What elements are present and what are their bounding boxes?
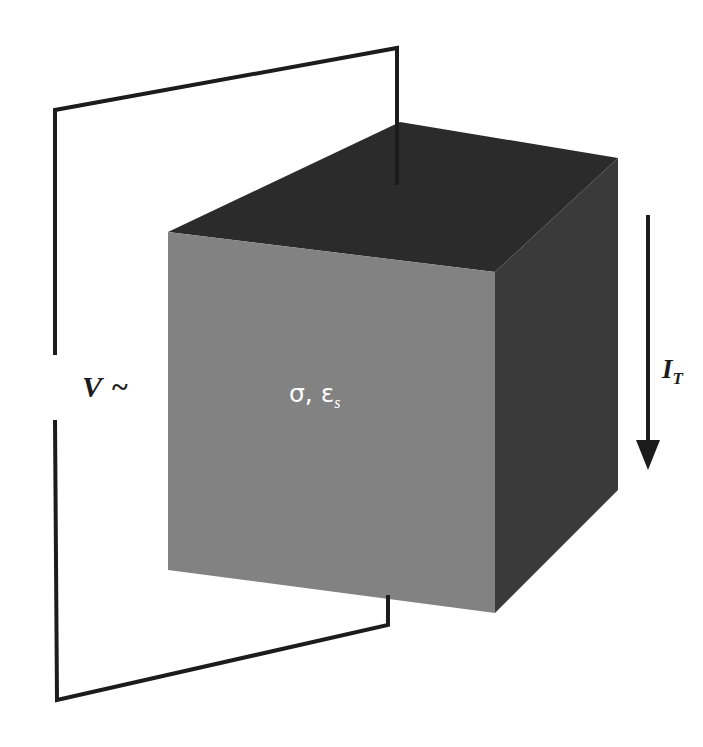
material-properties-subscript: s — [334, 394, 340, 411]
figure-root: V ~ σ, εs IT — [0, 0, 703, 747]
voltage-source-label: V ~ — [82, 372, 129, 402]
cube-front-face — [168, 232, 495, 613]
material-properties-text: σ, ε — [289, 379, 334, 408]
current-label-symbol: I — [662, 354, 673, 384]
material-properties-label: σ, εs — [289, 381, 341, 411]
current-label-subscript: T — [673, 369, 683, 388]
current-label: IT — [662, 356, 683, 387]
